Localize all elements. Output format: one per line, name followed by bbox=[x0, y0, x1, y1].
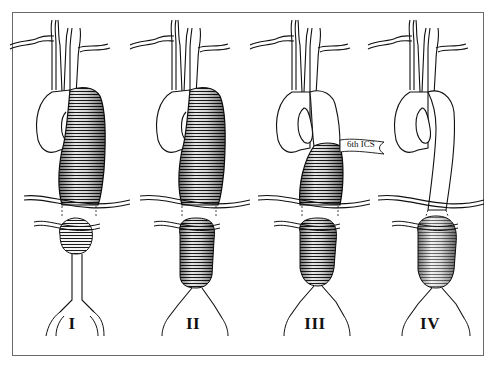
sixth-ics-annotation: 6th ICS bbox=[347, 139, 375, 149]
panel-label-type-4: IV bbox=[420, 314, 440, 334]
panel-type-3 bbox=[250, 20, 384, 336]
panel-label-type-1: I bbox=[68, 314, 75, 334]
visceral-vessels bbox=[34, 221, 458, 230]
panel-type-1 bbox=[10, 20, 110, 336]
panel-type-4 bbox=[368, 20, 470, 336]
panel-type-2 bbox=[130, 20, 230, 336]
panel-label-type-3: III bbox=[304, 314, 325, 334]
dashed-connectors bbox=[62, 206, 448, 218]
panel-label-type-2: II bbox=[186, 314, 200, 334]
